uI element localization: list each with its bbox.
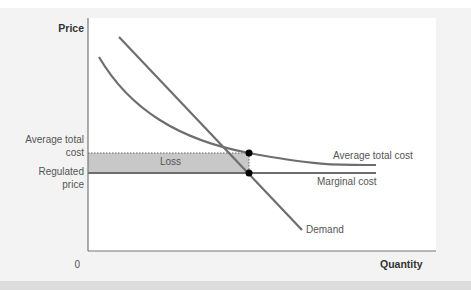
plot-area (88, 18, 436, 251)
mc-curve-label: Marginal cost (317, 176, 376, 187)
origin-label: 0 (60, 259, 80, 271)
atc-tick-label-line2: cost (0, 147, 84, 159)
atc-tick-label-line1: Average total (0, 134, 84, 146)
x-axis-title: Quantity (380, 258, 423, 270)
regulated-price-tick-label-line1: Regulated (0, 166, 84, 178)
atc-curve-label: Average total cost (333, 150, 413, 161)
y-axis-title: Price (40, 22, 84, 34)
regulated-price-tick-label-line2: price (0, 179, 84, 191)
loss-label: Loss (160, 156, 181, 167)
demand-curve-label: Demand (306, 224, 344, 235)
atc-point (246, 150, 253, 157)
regulated-price-point (246, 170, 253, 177)
